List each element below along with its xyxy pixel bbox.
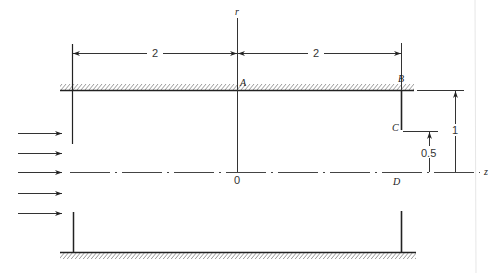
dimension-right-2: 2 xyxy=(238,47,401,59)
svg-text:2: 2 xyxy=(313,47,319,59)
dimension-left-2: 2 xyxy=(73,47,237,59)
point-A-label: A xyxy=(239,77,247,88)
svg-text:2: 2 xyxy=(152,47,158,59)
flow-geometry-diagram: z r 0 2 2 A B C D 1 0.5 xyxy=(0,0,502,273)
r-axis-label: r xyxy=(235,6,239,17)
inflow-arrows xyxy=(18,134,62,214)
point-C-label: C xyxy=(392,122,399,133)
dimension-step-0.5: 0.5 xyxy=(403,132,441,173)
page-edge-line xyxy=(475,0,476,273)
svg-text:0.5: 0.5 xyxy=(421,147,436,159)
svg-text:1: 1 xyxy=(452,124,458,136)
bottom-wall xyxy=(60,253,416,260)
z-axis-label: z xyxy=(483,166,488,177)
point-B-label: B xyxy=(398,73,404,84)
origin-label: 0 xyxy=(234,174,240,186)
point-D-label: D xyxy=(392,176,401,187)
